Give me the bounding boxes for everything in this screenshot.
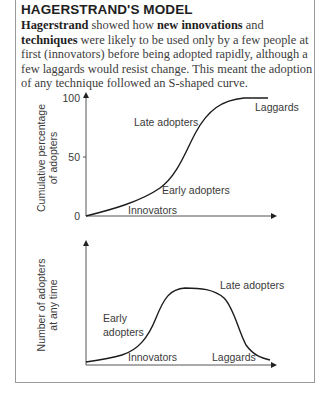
y-axis-label-line2: of adopters: [47, 132, 59, 185]
y-axis-label-line1: Cumulative percentage: [35, 104, 47, 212]
tick-0: 0: [74, 210, 80, 222]
diagram-canvas: 100 50 0 Cumulative percentage of adopte…: [0, 0, 333, 404]
adoption-rate-chart: Number of adopters at any time Early ado…: [35, 243, 284, 365]
y-axis-label-line1: Number of adopters: [35, 259, 47, 352]
label-early-adopters-line1: Early: [103, 312, 128, 324]
label-late-adopters: Late adopters: [220, 279, 284, 291]
label-early-adopters-line2: adopters: [103, 326, 144, 338]
label-innovators: Innovators: [128, 204, 177, 216]
y-axis-label-line2: at any time: [47, 279, 59, 331]
label-early-adopters: Early adopters: [162, 184, 230, 196]
tick-50: 50: [68, 151, 80, 163]
cumulative-adoption-chart: 100 50 0 Cumulative percentage of adopte…: [35, 92, 299, 222]
label-innovators: Innovators: [128, 351, 177, 363]
label-laggards: Laggards: [212, 351, 256, 363]
label-late-adopters: Late adopters: [134, 116, 198, 128]
tick-100: 100: [62, 92, 80, 104]
label-laggards: Laggards: [255, 101, 299, 113]
